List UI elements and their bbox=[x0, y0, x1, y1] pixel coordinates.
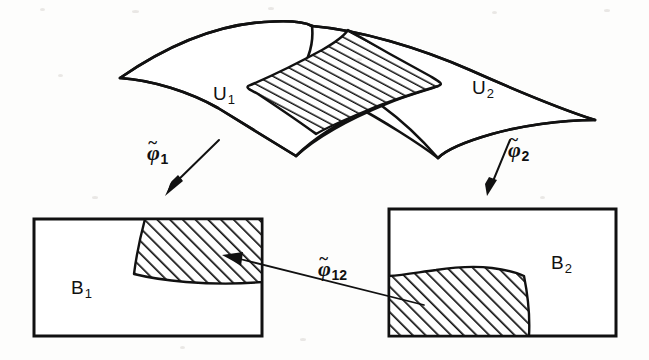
label-map-phi1-tilde: ~ bbox=[148, 134, 157, 151]
label-map-phi12-tilde: ~ bbox=[319, 250, 328, 267]
label-map-phi1-sub: 1 bbox=[160, 151, 168, 167]
label-patch-u1-letter: U bbox=[213, 83, 227, 104]
scan-speck bbox=[540, 196, 545, 199]
box-b1 bbox=[34, 219, 262, 336]
label-map-phi1-glyph-wrap: ~φ bbox=[147, 142, 160, 164]
scan-speck bbox=[356, 58, 362, 61]
label-map-phi2-tilde: ~ bbox=[509, 131, 518, 148]
label-patch-u1-sub: 1 bbox=[228, 92, 236, 107]
label-map-phi12-glyph-wrap: ~φ bbox=[318, 258, 331, 280]
label-patch-u2-sub: 2 bbox=[487, 86, 495, 101]
label-box-b2-letter: B bbox=[551, 252, 564, 273]
scan-speck bbox=[300, 338, 306, 341]
label-box-b1-letter: B bbox=[71, 277, 84, 298]
label-box-b1: B1 bbox=[71, 278, 92, 300]
label-patch-u2-letter: U bbox=[472, 77, 486, 98]
scan-speck bbox=[40, 8, 45, 11]
scan-speck bbox=[92, 196, 98, 199]
label-map-phi12: ~φ12 bbox=[318, 258, 347, 282]
arrow-phi1 bbox=[165, 140, 219, 196]
label-map-phi1: ~φ1 bbox=[147, 142, 168, 166]
label-box-b1-sub: 1 bbox=[85, 286, 93, 301]
label-patch-u1: U1 bbox=[213, 84, 235, 106]
label-box-b2: B2 bbox=[551, 253, 572, 275]
label-map-phi2-sub: 2 bbox=[521, 148, 529, 164]
manifold-chart-diagram: U1 U2 ~φ1 ~φ2 ~φ12 B1 B2 bbox=[0, 0, 649, 360]
label-box-b2-sub: 2 bbox=[565, 261, 573, 276]
diagram-canvas bbox=[0, 0, 649, 360]
label-patch-u2: U2 bbox=[472, 78, 494, 100]
label-map-phi2-glyph-wrap: ~φ bbox=[508, 139, 521, 161]
b1-hatched-region bbox=[134, 219, 262, 284]
scan-speck bbox=[180, 346, 185, 349]
scan-speck bbox=[132, 10, 139, 13]
scan-speck bbox=[492, 11, 497, 14]
scan-speck bbox=[604, 9, 610, 12]
box-b2 bbox=[389, 209, 616, 336]
scan-speck bbox=[268, 7, 274, 10]
arrow-phi2 bbox=[485, 140, 510, 196]
scan-speck bbox=[58, 74, 63, 77]
manifold-surface bbox=[120, 21, 595, 158]
label-map-phi2: ~φ2 bbox=[508, 139, 529, 163]
label-map-phi12-sub: 12 bbox=[331, 267, 347, 283]
